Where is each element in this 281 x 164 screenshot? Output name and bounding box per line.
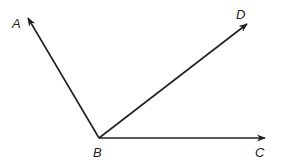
ray-BA [28,18,99,138]
label-C: C [255,146,264,159]
ray-BD [99,24,247,138]
label-B: B [93,146,102,159]
label-D: D [236,8,245,21]
angle-diagram: A D B C [0,0,281,164]
label-A: A [12,17,21,30]
rays-drawing [0,0,281,164]
